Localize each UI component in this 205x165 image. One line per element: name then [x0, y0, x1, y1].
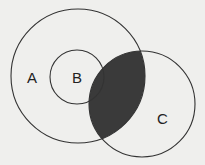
- label-b: B: [72, 69, 82, 86]
- venn-diagram: A B C: [0, 0, 205, 165]
- label-c: C: [157, 110, 168, 127]
- label-a: A: [27, 69, 37, 86]
